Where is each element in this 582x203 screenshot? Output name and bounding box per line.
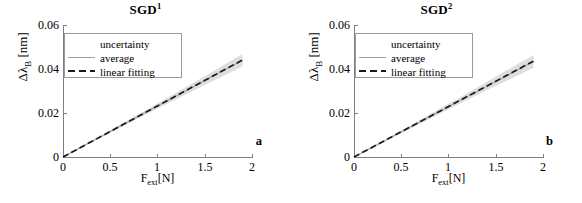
- y-axis-title: ΔλB [nm]: [15, 0, 33, 117]
- y-tick-label-2: 0.04: [329, 62, 350, 77]
- y-axis-title: ΔλB [nm]: [306, 0, 324, 117]
- panel-title-text: SGD: [421, 2, 448, 17]
- legend-label-average: average: [391, 52, 425, 64]
- dashed-line-icon: [359, 66, 386, 77]
- legend-item-uncertainty: uncertainty: [68, 37, 178, 50]
- y-axis-title-subscript: B: [23, 61, 33, 67]
- legend-label-linear-fitting: linear fitting: [100, 66, 155, 78]
- x-axis-title: Fext[N]: [63, 171, 252, 187]
- chart-panel-sgd1: SGD1 0 0.02 0.04 0.06 0 0.5 1 1.5 2 Fex: [0, 0, 291, 203]
- uncertainty-patch-icon: [359, 38, 386, 49]
- x-axis-title: Fext[N]: [354, 171, 543, 187]
- legend-item-average: average: [359, 51, 469, 64]
- y-tick-label-1: 0.02: [329, 106, 350, 121]
- legend: uncertainty average linear fitting: [64, 33, 182, 78]
- y-axis-title-symbol: Δλ: [306, 67, 321, 82]
- x-axis-title-subscript: ext: [438, 177, 448, 187]
- y-tick-label-0: 0: [344, 150, 350, 165]
- x-axis-title-unit: [N]: [158, 171, 175, 185]
- legend-label-uncertainty: uncertainty: [100, 38, 149, 50]
- y-tick-label-3: 0.06: [38, 18, 59, 33]
- legend-label-uncertainty: uncertainty: [391, 38, 440, 50]
- y-axis-title-unit: [nm]: [306, 32, 321, 57]
- y-tick-label-2: 0.04: [38, 62, 59, 77]
- legend-item-uncertainty: uncertainty: [359, 37, 469, 50]
- y-tick-label-1: 0.02: [38, 106, 59, 121]
- y-axis-title-subscript: B: [314, 61, 324, 67]
- x-axis-title-unit: [N]: [449, 171, 466, 185]
- uncertainty-patch-icon: [68, 38, 95, 49]
- x-axis-title-subscript: ext: [147, 177, 157, 187]
- legend-label-average: average: [100, 52, 134, 64]
- dashed-line-icon: [68, 66, 95, 77]
- panel-title-superscript: 1: [157, 1, 161, 11]
- figure-container: SGD1 0 0.02 0.04 0.06 0 0.5 1 1.5 2 Fex: [0, 0, 582, 203]
- y-axis-title-symbol: Δλ: [15, 67, 30, 82]
- y-axis-title-unit: [nm]: [15, 32, 30, 57]
- x-tick-4: [252, 154, 253, 158]
- average-line-icon: [68, 52, 95, 63]
- legend-label-linear-fitting: linear fitting: [391, 66, 446, 78]
- legend: uncertainty average linear fitting: [355, 33, 473, 78]
- legend-item-linear-fitting: linear fitting: [359, 65, 469, 78]
- panel-letter: a: [256, 134, 262, 149]
- panel-title-text: SGD: [130, 2, 157, 17]
- legend-item-linear-fitting: linear fitting: [68, 65, 178, 78]
- legend-item-average: average: [68, 51, 178, 64]
- panel-letter: b: [546, 134, 553, 149]
- chart-panel-sgd2: SGD2 0 0.02 0.04 0.06 0 0.5 1 1.5 2 Fext…: [291, 0, 582, 203]
- x-tick-4: [543, 154, 544, 158]
- panel-title-superscript: 2: [448, 1, 452, 11]
- y-tick-label-0: 0: [53, 150, 59, 165]
- average-line-icon: [359, 52, 386, 63]
- y-tick-label-3: 0.06: [329, 18, 350, 33]
